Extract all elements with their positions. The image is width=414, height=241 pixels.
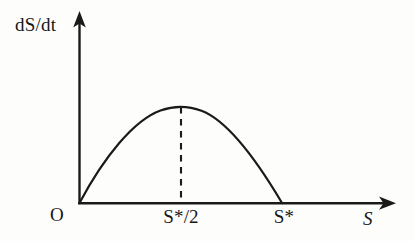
y-axis-label: dS/dt: [15, 15, 56, 34]
x-axis-label: S: [363, 209, 373, 228]
x-tick-label-s-star: S*: [274, 207, 294, 226]
figure-canvas: dS/dt O S*/2 S* S: [0, 0, 414, 241]
origin-label: O: [50, 205, 64, 224]
x-tick-label-s-star-half: S*/2: [163, 207, 199, 226]
